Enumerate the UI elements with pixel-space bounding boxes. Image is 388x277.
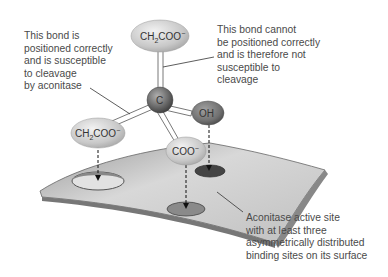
carbon-atom: C <box>147 87 173 113</box>
binding-site-right <box>195 165 225 177</box>
group-oh: OH <box>192 101 224 125</box>
group-left-ch2coo: CH2COO− <box>71 118 125 148</box>
annotation-top-bond: This bond cannot be positioned correctly… <box>217 24 320 87</box>
svg-text:C: C <box>156 95 163 106</box>
annotation-left-bond: This bond is positioned correctly and is… <box>24 30 113 93</box>
binding-site-bottom <box>167 202 205 216</box>
svg-text:CH2COO−: CH2COO− <box>140 30 185 44</box>
svg-text:OH: OH <box>199 108 214 119</box>
annotation-active-site: Aconitase active site with at least thre… <box>246 212 367 262</box>
leader-top <box>163 57 214 67</box>
group-top-ch2coo: CH2COO− <box>131 20 189 52</box>
svg-text:CH2COO−: CH2COO− <box>75 127 120 141</box>
group-bottom-coo: COO− <box>166 137 206 165</box>
